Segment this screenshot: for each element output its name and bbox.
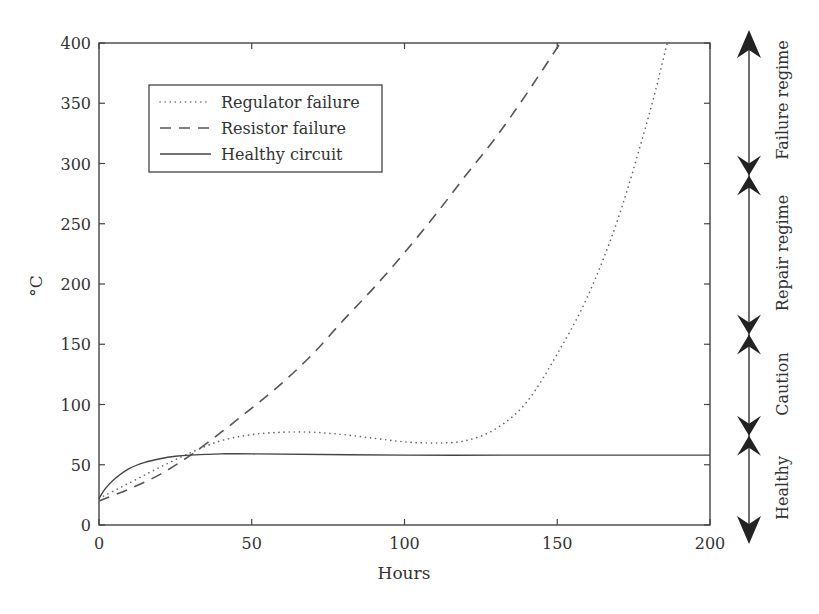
x-tick-label: 150 [542, 534, 573, 553]
x-axis-title: Hours [378, 563, 431, 583]
y-tick-label: 50 [71, 456, 91, 475]
legend: Regulator failureResistor failureHealthy… [149, 85, 382, 172]
y-tick-label: 150 [60, 335, 91, 354]
legend-label: Healthy circuit [221, 145, 343, 164]
regime-label: Repair regime [773, 195, 792, 311]
chart: 050100150200050100150200250300350400 Reg… [0, 0, 819, 614]
regime-label: Healthy [773, 456, 792, 520]
y-axis-title: °C [26, 275, 46, 297]
x-tick-label: 100 [389, 534, 420, 553]
regime-label: Caution [773, 352, 792, 416]
y-tick-label: 200 [60, 275, 91, 294]
y-tick-label: 300 [60, 155, 91, 174]
x-tick-label: 50 [242, 534, 262, 553]
y-tick-label: 350 [60, 94, 91, 113]
y-tick-label: 400 [60, 34, 91, 53]
legend-label: Regulator failure [221, 93, 360, 112]
x-tick-label: 200 [695, 534, 726, 553]
series-healthy-circuit [99, 454, 710, 499]
y-tick-label: 100 [60, 396, 91, 415]
x-tick-label: 0 [94, 534, 104, 553]
regime-scale: HealthyCautionRepair regimeFailure regim… [737, 30, 792, 544]
regime-label: Failure regime [773, 40, 792, 159]
y-tick-label: 0 [81, 516, 91, 535]
y-tick-label: 250 [60, 215, 91, 234]
legend-label: Resistor failure [221, 119, 346, 138]
